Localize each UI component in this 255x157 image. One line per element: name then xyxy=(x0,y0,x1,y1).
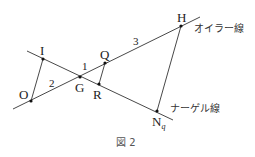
point-N xyxy=(155,109,158,112)
segment-HN xyxy=(157,26,181,111)
label-H: H xyxy=(177,11,186,24)
label-Q: Q xyxy=(100,48,109,61)
ratio-QH: 3 xyxy=(133,36,139,47)
figure-caption: 図 2 xyxy=(116,138,136,148)
ratio-OG: 2 xyxy=(49,78,55,89)
nagel-line-label: ナーゲル線 xyxy=(170,104,220,114)
label-I: I xyxy=(40,44,44,57)
label-O: O xyxy=(19,88,28,101)
label-R: R xyxy=(93,88,102,101)
point-G xyxy=(78,75,81,78)
euler-line-label: オイラー線 xyxy=(194,24,244,34)
label-G: G xyxy=(75,81,84,94)
point-R xyxy=(97,82,100,85)
ratio-GQ: 1 xyxy=(82,61,88,72)
label-N: Nq xyxy=(152,115,165,131)
label-N-main: N xyxy=(152,114,161,129)
point-O xyxy=(29,99,32,102)
label-N-subscript: q xyxy=(161,122,165,131)
geometry-figure: O I G Q R H Nq 2 1 3 オイラー線 ナーゲル線 図 2 xyxy=(0,0,255,157)
